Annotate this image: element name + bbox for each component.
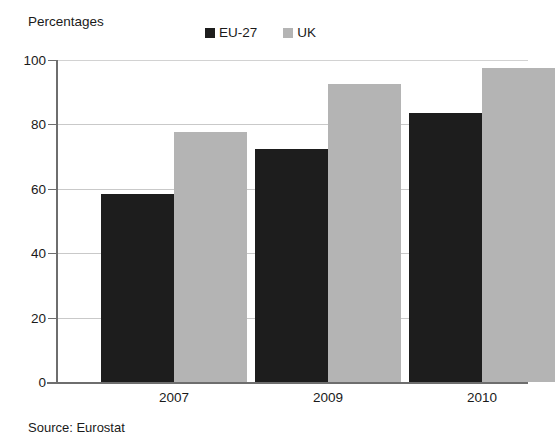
legend-item-uk: UK	[283, 26, 316, 40]
y-tick-label: 60	[2, 181, 46, 196]
legend-label-eu27: EU-27	[219, 26, 257, 40]
x-axis-category-2010: 2010	[467, 390, 497, 405]
x-axis-category-2009: 2009	[313, 390, 343, 405]
legend-label-uk: UK	[297, 26, 316, 40]
x-axis-category-2007: 2007	[159, 390, 189, 405]
chart-legend: EU-27 UK	[205, 26, 316, 40]
bar-eu27-2009	[255, 149, 328, 383]
plot-area	[56, 60, 528, 382]
legend-item-eu27: EU-27	[205, 26, 257, 40]
y-axis-line	[56, 60, 58, 383]
source-note: Source: Eurostat	[28, 420, 125, 435]
y-axis-tick-labels: 100 80 60 40 20 0	[0, 0, 46, 444]
square-swatch-icon	[283, 28, 293, 38]
y-tick-label: 20	[2, 310, 46, 325]
y-tick-label: 40	[2, 246, 46, 261]
y-tick-label: 0	[2, 375, 46, 390]
bar-uk-2010	[482, 68, 555, 382]
bar-eu27-2010	[409, 113, 482, 382]
bar-eu27-2007	[101, 194, 174, 382]
square-swatch-icon	[205, 28, 215, 38]
y-tick-label: 100	[2, 53, 46, 68]
bar-uk-2009	[328, 84, 401, 382]
x-axis-line	[47, 382, 528, 384]
y-tick-label: 80	[2, 117, 46, 132]
gridline	[56, 60, 528, 61]
bar-uk-2007	[174, 132, 247, 382]
